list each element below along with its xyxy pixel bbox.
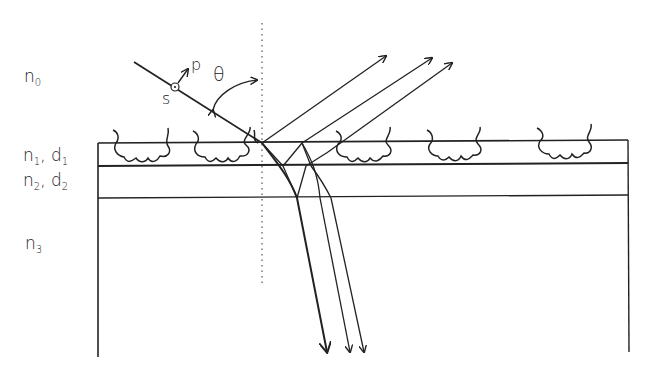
interface-1-2 — [98, 163, 628, 166]
label-s: s — [162, 89, 170, 108]
label-n2-d2: n2, d2 — [23, 170, 68, 192]
p-polarization-arrow — [178, 69, 188, 83]
incident-ray — [134, 62, 262, 143]
internal-reflections — [262, 143, 331, 198]
reflected-rays — [262, 56, 452, 152]
transmitted-rays — [262, 143, 364, 352]
label-n3: n3 — [25, 233, 42, 255]
label-n1-d1: n1, d1 — [23, 145, 68, 167]
top-interface — [98, 140, 628, 143]
interface-2-3 — [98, 195, 628, 198]
thin-film-diagram — [0, 0, 646, 372]
label-p: p — [191, 55, 201, 74]
label-n0: n0 — [24, 66, 41, 88]
layer-stack — [98, 140, 629, 357]
label-theta: θ — [213, 63, 225, 85]
right-edge — [628, 140, 629, 352]
